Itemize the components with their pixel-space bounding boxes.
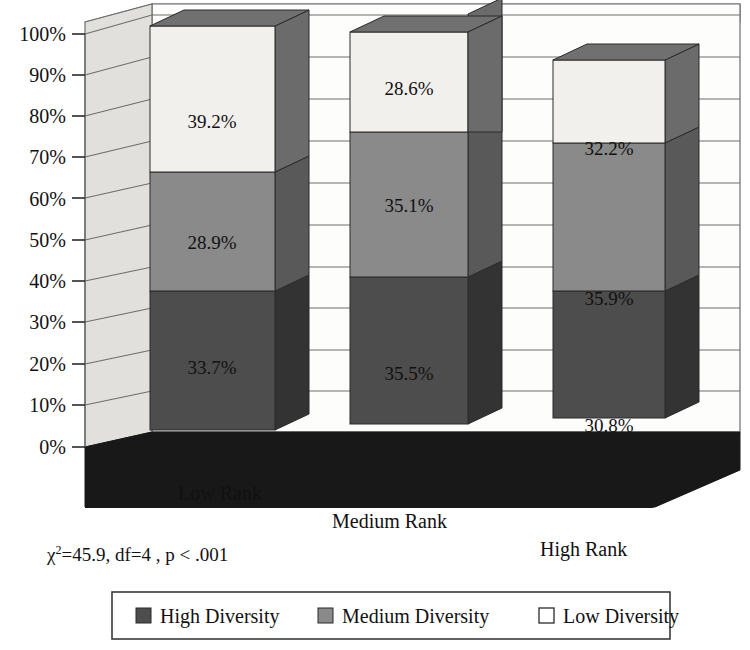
- bar3-face-high: [553, 291, 665, 418]
- chi-square-annotation: χ2=45.9, df=4 , p < .001: [46, 543, 228, 565]
- bar-group-high-rank: 32.2% 35.9% 30.8%: [553, 44, 699, 436]
- bar3-side-medium: [665, 127, 699, 291]
- legend: High Diversity Medium Diversity Low Dive…: [112, 592, 679, 639]
- bar2-label-high: 35.5%: [384, 363, 433, 384]
- bar1-side-high: [275, 275, 309, 430]
- bar3-label-medium: 35.9%: [584, 288, 633, 309]
- bar2-side-low-upper: [468, 16, 502, 132]
- bar2-label-medium: 35.1%: [384, 195, 433, 216]
- bar2-side-high: [468, 261, 502, 424]
- ytick-label-40: 40%: [29, 270, 66, 292]
- bar3-face-low: [553, 60, 665, 143]
- bar-group-medium-rank: 28.6% 35.1% 35.5%: [350, 0, 502, 424]
- bar3-side-low: [665, 44, 699, 143]
- svg-text:χ2=45.9, df=4 , p < .001: χ2=45.9, df=4 , p < .001: [46, 543, 228, 565]
- ytick-label-50: 50%: [29, 229, 66, 251]
- chi-annotation-text: =45.9, df=4 , p < .001: [61, 544, 228, 565]
- category-label-medium-rank: Medium Rank: [332, 510, 447, 532]
- ytick-label-0: 0%: [39, 436, 66, 458]
- chart-container: 100% 90% 80% 70% 60% 50% 40% 30% 20% 10%…: [0, 0, 750, 650]
- legend-label-medium-diversity: Medium Diversity: [342, 605, 489, 628]
- bar2-side-medium: [468, 116, 502, 277]
- legend-label-high-diversity: High Diversity: [160, 605, 279, 628]
- plot-area-3d: 100% 90% 80% 70% 60% 50% 40% 30% 20% 10%…: [19, 0, 740, 561]
- ytick-label-20: 20%: [29, 353, 66, 375]
- legend-swatch-high-diversity: [136, 608, 151, 623]
- ytick-label-10: 10%: [29, 394, 66, 416]
- y-axis-tick-labels: 100% 90% 80% 70% 60% 50% 40% 30% 20% 10%…: [19, 23, 66, 458]
- bar1-label-medium: 28.9%: [187, 232, 236, 253]
- legend-swatch-medium-diversity: [318, 608, 333, 623]
- ytick-label-90: 90%: [29, 64, 66, 86]
- category-label-high-rank: High Rank: [540, 538, 627, 561]
- y-axis-ticks: [72, 34, 85, 447]
- bar1-side-medium: [275, 156, 309, 291]
- legend-label-low-diversity: Low Diversity: [563, 605, 679, 628]
- left-side-wall: [85, 4, 152, 447]
- bar1-label-high: 33.7%: [187, 357, 236, 378]
- ytick-label-80: 80%: [29, 105, 66, 127]
- bar3-side-high: [665, 275, 699, 418]
- bar2-face-high: [350, 277, 468, 424]
- bar1-side-low: [275, 10, 309, 172]
- bar3-face-medium: [553, 143, 665, 291]
- ytick-label-60: 60%: [29, 188, 66, 210]
- category-label-low-rank: Low Rank: [178, 482, 262, 504]
- bar1-label-low: 39.2%: [187, 111, 236, 132]
- bar-group-low-rank: 39.2% 28.9% 33.7%: [150, 10, 309, 430]
- bar3-label-low: 32.2%: [584, 138, 633, 159]
- stacked-bar-chart-3d: 100% 90% 80% 70% 60% 50% 40% 30% 20% 10%…: [0, 0, 750, 650]
- ytick-label-30: 30%: [29, 311, 66, 333]
- ytick-label-100: 100%: [19, 23, 66, 45]
- ytick-label-70: 70%: [29, 146, 66, 168]
- legend-swatch-low-diversity: [539, 608, 554, 623]
- bar2-label-low: 28.6%: [384, 78, 433, 99]
- bar1-face-low: [150, 26, 275, 172]
- bar3-label-high: 30.8%: [584, 415, 633, 436]
